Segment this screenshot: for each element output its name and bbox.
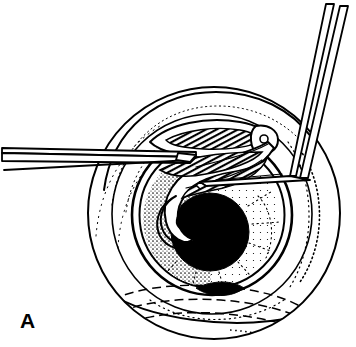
figure-panel: A [0,0,356,347]
panel-label: A [20,310,35,331]
surgical-illustration [0,0,356,347]
